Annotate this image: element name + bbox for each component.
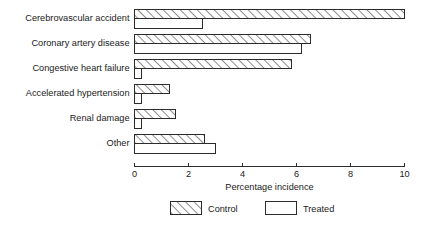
category-labels: Cerebrovascular accidentCoronary artery … xyxy=(25,13,130,148)
category-label: Congestive heart failure xyxy=(32,63,129,73)
x-axis-tick-label: 0 xyxy=(132,169,137,179)
bar-control xyxy=(135,34,311,44)
bar-control xyxy=(135,9,405,19)
x-axis-tick-labels: 0246810 xyxy=(132,169,410,179)
bars-layer xyxy=(135,9,405,153)
legend-swatch-treated xyxy=(265,202,296,215)
category-label: Cerebrovascular accident xyxy=(25,13,130,23)
bar-treated xyxy=(135,44,302,54)
bar-control xyxy=(135,134,205,144)
legend-swatch-control xyxy=(170,202,201,215)
x-axis-tick-label: 6 xyxy=(294,169,299,179)
category-label: Coronary artery disease xyxy=(31,38,129,48)
legend-label-treated: Treated xyxy=(303,204,334,214)
chart-canvas: Cerebrovascular accidentCoronary artery … xyxy=(0,0,424,233)
legend-label-control: Control xyxy=(208,204,238,214)
chart-legend: ControlTreated xyxy=(170,202,334,215)
bar-treated xyxy=(135,94,142,104)
category-label: Accelerated hypertension xyxy=(26,88,130,98)
bar-control xyxy=(135,109,176,119)
x-axis xyxy=(135,163,405,167)
bar-treated xyxy=(135,69,142,79)
x-axis-tick-label: 4 xyxy=(240,169,245,179)
category-label: Other xyxy=(107,138,130,148)
bar-treated xyxy=(135,19,203,29)
x-axis-tick-label: 10 xyxy=(399,169,409,179)
bar-control xyxy=(135,84,170,94)
bar-control xyxy=(135,59,292,69)
category-label: Renal damage xyxy=(70,113,130,123)
x-axis-tick-label: 8 xyxy=(348,169,353,179)
bar-treated xyxy=(135,119,142,129)
x-axis-tick-label: 2 xyxy=(186,169,191,179)
x-axis-title: Percentage incidence xyxy=(225,182,313,192)
bar-treated xyxy=(135,144,216,154)
bar-chart-figure: Cerebrovascular accidentCoronary artery … xyxy=(0,0,424,233)
